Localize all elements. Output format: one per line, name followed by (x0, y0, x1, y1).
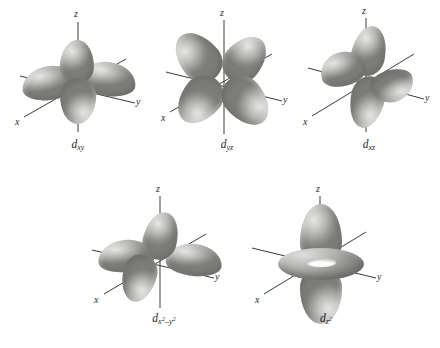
orbital-label-dz2: dz2 (250, 312, 402, 326)
orbital-stage-dyz: z x y (156, 4, 298, 160)
axis-label-x: x (161, 113, 165, 123)
orbital-label-subscript: x2–y2 (158, 317, 176, 326)
orbital-torus-hole (306, 258, 336, 267)
axis-label-z: z (220, 8, 224, 18)
orbital-label-dyz: dyz (156, 138, 298, 152)
axis-label-y: y (283, 95, 287, 105)
orbital-diagram-dyz: z x y dyz (156, 4, 298, 160)
axis-label-y: y (215, 272, 219, 282)
axis-label-x: x (15, 117, 19, 127)
axis-label-x: x (303, 117, 307, 127)
orbital-label-sup-2: 2 (172, 315, 175, 322)
orbital-diagram-dx2y2: z x y dx2–y2 (86, 182, 242, 342)
orbital-label-sup: 2 (329, 315, 332, 322)
orbital-diagram-dxz: z x y dxz (300, 4, 438, 160)
orbital-diagram-dxy: z x y dxy (2, 4, 154, 160)
orbital-stage-dxy: z x y (2, 4, 154, 160)
orbital-label-subscript: xy (77, 143, 84, 152)
orbital-label-subscript: yz (227, 143, 234, 152)
axis-label-z: z (74, 9, 78, 19)
orbital-label-dx2y2: dx2–y2 (86, 312, 242, 326)
axis-label-y: y (425, 93, 429, 103)
axis-label-y: y (136, 97, 140, 107)
axis-label-x: x (255, 295, 259, 305)
orbital-label-dxy: dxy (2, 138, 154, 152)
orbital-diagram-dz2: z x y dz2 (250, 182, 402, 342)
orbital-label-subscript: z2 (326, 317, 332, 326)
axis-label-x: x (94, 295, 98, 305)
axis-label-z: z (362, 6, 366, 16)
axis-label-z: z (316, 184, 320, 194)
axis-label-y: y (377, 272, 381, 282)
d-orbital-figure: z x y dxy z x y dyz (0, 0, 440, 348)
orbital-label-subscript: xz (369, 143, 376, 152)
axis-label-z: z (156, 184, 160, 194)
orbital-label-dxz: dxz (300, 138, 438, 152)
orbital-stage-dxz: z x y (300, 4, 438, 160)
